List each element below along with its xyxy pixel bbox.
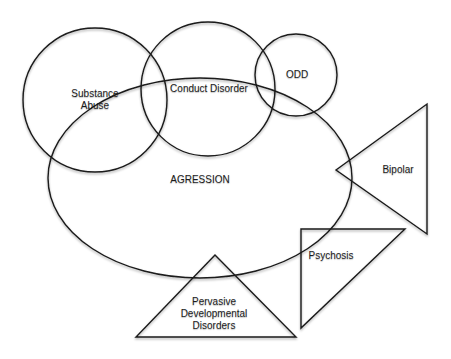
conduct-disorder-label: Conduct Disorder — [170, 83, 248, 95]
pervasive-developmental-disorders-label: Pervasive Developmental Disorders — [181, 296, 248, 332]
substance-abuse-label: Substance Abuse — [71, 88, 118, 112]
psychosis-triangle — [301, 229, 405, 328]
bipolar-label: Bipolar — [382, 164, 413, 176]
odd-label: ODD — [286, 69, 308, 81]
agression-label: AGRESSION — [170, 174, 229, 186]
psychosis-label: Psychosis — [308, 250, 353, 262]
